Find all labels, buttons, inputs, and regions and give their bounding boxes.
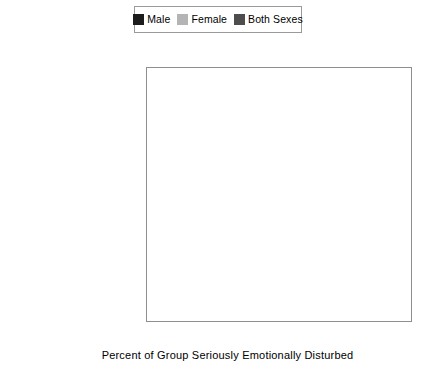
legend-swatch-male (133, 14, 144, 25)
chart-legend: Male Female Both Sexes (134, 6, 302, 33)
legend-entry-both-sexes: Both Sexes (234, 14, 303, 25)
x-axis-tick-labels (146, 327, 410, 341)
plot-area (146, 67, 412, 322)
legend-entry-female: Female (177, 14, 227, 25)
x-axis-ticks (146, 321, 410, 326)
legend-label-both-sexes: Both Sexes (248, 14, 303, 25)
legend-entry-male: Male (133, 14, 170, 25)
category-axis-labels (0, 67, 142, 320)
legend-label-male: Male (147, 14, 170, 25)
bars-container (147, 68, 411, 321)
x-axis-title: Percent of Group Seriously Emotionally D… (0, 348, 429, 362)
legend-swatch-female (177, 14, 188, 25)
legend-swatch-both-sexes (234, 14, 245, 25)
x-axis-title-text: Percent of Group Seriously Emotionally D… (102, 348, 354, 362)
legend-label-female: Female (191, 14, 227, 25)
